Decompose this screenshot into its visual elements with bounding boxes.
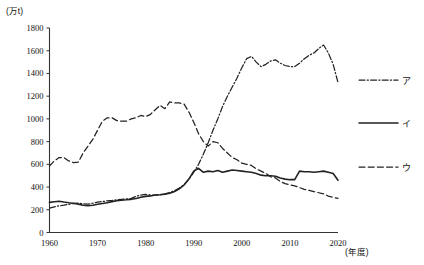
y-tick-label: 1600 [27,46,44,56]
y-tick-label: 1200 [27,91,44,101]
legend-label-ウ: ウ [402,163,411,173]
legend-label-イ: イ [402,119,411,129]
y-tick-label: 1400 [27,68,44,78]
x-tick-label: 2000 [233,238,250,248]
y-axis-ticks: 020040060080010001200140016001800 [27,23,50,238]
y-tick-label: 600 [31,159,44,169]
series-line-ウ [50,102,339,199]
x-tick-label: 1990 [185,238,202,248]
x-tick-label: 1960 [41,238,58,248]
series-line-ア [50,45,339,208]
y-tick-label: 800 [31,137,44,147]
x-tick-label: 2010 [281,238,298,248]
chart-container: (万t) 020040060080010001200140016001800 1… [0,0,424,265]
y-tick-label: 400 [31,182,44,192]
y-tick-label: 1000 [27,114,44,124]
series-lines [50,45,339,208]
line-chart: (万t) 020040060080010001200140016001800 1… [0,0,424,265]
series-line-イ [50,168,339,205]
y-tick-label: 200 [31,205,44,215]
y-axis-unit-label: (万t) [6,6,23,16]
y-axis-unit-group: (万t) [6,6,23,16]
x-axis-ticks: 1960197019801990200020102020 [41,238,347,248]
x-tick-label: 1980 [137,238,154,248]
chart-legend: アイウ [359,76,411,173]
x-axis-unit-label: (年度) [345,247,369,257]
x-tick-label: 1970 [89,238,106,248]
legend-label-ア: ア [402,76,411,86]
y-tick-label: 0 [39,228,43,238]
y-tick-label: 1800 [27,23,44,33]
x-tick-label: 2020 [330,238,347,248]
